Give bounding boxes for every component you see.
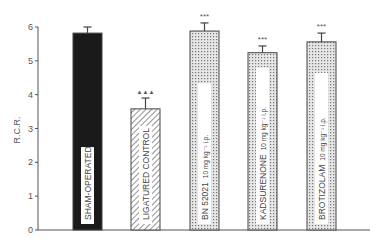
significance-marker: ***: [317, 22, 326, 31]
significance-marker: ▲▲▲: [137, 89, 155, 95]
significance-marker: ***: [200, 12, 209, 21]
significance-marker: ***: [258, 35, 267, 44]
y-tick-label: 1: [28, 191, 33, 201]
bar-label: LIGATURED CONTROL: [141, 128, 151, 220]
bar-group: ***KADSURENONE10 mg kg⁻¹ i.p.: [248, 35, 277, 230]
bar-label: KADSURENONE10 mg kg⁻¹ i.p.: [258, 107, 268, 220]
bar-label: SHAM-OPERATED: [83, 146, 93, 220]
bar-chart: 0123456 SHAM-OPERATED▲▲▲LIGATURED CONTRO…: [0, 0, 384, 247]
y-tick-label: 5: [28, 56, 33, 66]
bar-group: SHAM-OPERATED: [73, 27, 102, 230]
bars: SHAM-OPERATED▲▲▲LIGATURED CONTROL***BN 5…: [73, 12, 336, 230]
y-tick-label: 4: [28, 90, 33, 100]
y-tick-label: 3: [28, 124, 33, 134]
y-tick-label: 6: [28, 22, 33, 32]
y-axis-label: R.C.R.: [12, 117, 22, 144]
bar-label: BN 5202110 mg kg⁻¹ i.p.: [200, 135, 210, 220]
bar-group: ***BN 5202110 mg kg⁻¹ i.p.: [190, 12, 219, 230]
y-tick-label: 0: [28, 225, 33, 235]
bar-label: BROTIZOLAM10 mg kg⁻¹ i.p.: [317, 117, 327, 220]
bar-group: ***BROTIZOLAM10 mg kg⁻¹ i.p.: [307, 22, 336, 230]
y-tick-label: 2: [28, 157, 33, 167]
bar-group: ▲▲▲LIGATURED CONTROL: [131, 89, 160, 230]
